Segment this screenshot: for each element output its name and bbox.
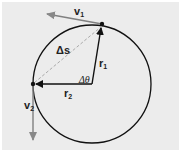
point-1 [100, 22, 104, 26]
label-delta-s: Δs [56, 44, 70, 56]
circular-motion-diagram: v1 Δs r1 Δθ r2 v2 [0, 0, 183, 159]
diagram-background [2, 2, 179, 150]
diagram-canvas [0, 0, 183, 159]
label-v1: v1 [74, 5, 84, 18]
point-2 [31, 82, 35, 86]
label-delta-theta: Δθ [79, 74, 90, 85]
label-r1: r1 [99, 57, 107, 70]
label-r2: r2 [64, 87, 72, 100]
label-v2: v2 [24, 99, 34, 112]
